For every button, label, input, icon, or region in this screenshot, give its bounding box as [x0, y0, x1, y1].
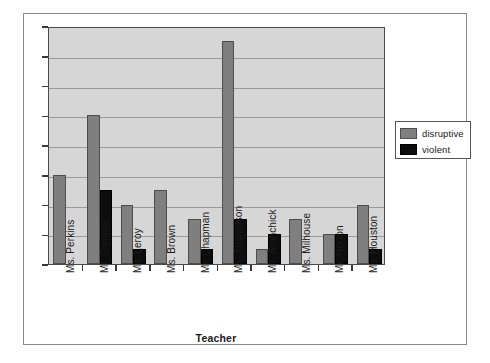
x-axis-tick-label: Mr. Gilmore [92, 273, 106, 353]
legend-swatch-violent [400, 144, 417, 155]
x-axis-tick-label-text: Ms. Houston [368, 216, 379, 273]
bar-disruptive [53, 175, 66, 264]
x-axis-tick-mark [149, 265, 151, 271]
x-axis-tick-label: Ms. Leroy [125, 273, 139, 353]
bar-disruptive [188, 219, 201, 264]
x-axis-tick-mark [284, 265, 286, 271]
legend-label-disruptive: disruptive [422, 128, 464, 139]
bar-disruptive [87, 115, 100, 264]
legend-label-violent: violent [422, 144, 450, 155]
x-axis-tick-label: Mr. Norton [327, 273, 341, 353]
x-axis-tick-label: Ms. Milhouse [294, 273, 308, 353]
chart-legend: disruptive violent [395, 121, 471, 159]
x-axis-tick-label-text: Mr. Gilmore [99, 220, 110, 273]
bar-disruptive [289, 219, 302, 264]
x-axis-tick-label: Ms. Perkins [58, 273, 72, 353]
legend-entry-violent: violent [400, 142, 470, 156]
x-axis-tick-mark [250, 265, 252, 271]
x-axis: Ms. PerkinsMr. GilmoreMs. LeroyMs. Brown… [48, 265, 385, 363]
x-axis-tick-label-text: Ms. Aronchick [267, 209, 278, 273]
x-axis-tick-mark [351, 265, 353, 271]
x-axis-title: Teacher [186, 332, 246, 344]
y-axis: 0246810121416 [0, 0, 48, 265]
x-axis-tick-label-text: Mr. Norton [334, 225, 345, 273]
x-axis-tick-label: Ms. Brown [159, 273, 173, 353]
x-axis-tick-mark [217, 265, 219, 271]
x-axis-tick-label-text: Ms. Thompson [233, 206, 244, 273]
x-axis-tick-label-text: Ms. Brown [166, 225, 177, 273]
legend-entry-disruptive: disruptive [400, 126, 470, 140]
x-axis-tick-label-text: Mr. Chapman [200, 212, 211, 273]
x-axis-tick-label: Ms. Houston [361, 273, 375, 353]
x-axis-tick-label-text: Ms. Milhouse [301, 213, 312, 273]
x-axis-tick-label: Ms. Aronchick [260, 273, 274, 353]
x-axis-tick-mark [183, 265, 185, 271]
x-axis-tick-mark [318, 265, 320, 271]
legend-swatch-disruptive [400, 128, 417, 139]
x-axis-tick-mark [82, 265, 84, 271]
bar-chart-figure: 0246810121416 Ms. PerkinsMr. GilmoreMs. … [0, 0, 490, 363]
x-axis-tick-label-text: Ms. Perkins [65, 220, 76, 273]
x-axis-tick-mark [115, 265, 117, 271]
x-axis-tick-label-text: Ms. Leroy [132, 228, 143, 273]
